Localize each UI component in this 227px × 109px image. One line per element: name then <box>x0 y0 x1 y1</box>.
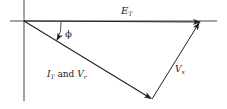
phi-angle-arc <box>57 22 61 40</box>
vx-label: Vx <box>175 65 185 75</box>
et-label: ET <box>121 6 132 17</box>
it-vr-label: IT and Vr <box>47 70 87 80</box>
phasor-diagram <box>0 0 227 109</box>
vx-vector <box>152 23 199 99</box>
phi-label: ϕ <box>65 29 72 39</box>
it-vr-vector <box>24 21 151 99</box>
